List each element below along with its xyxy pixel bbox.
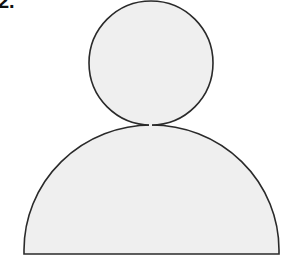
person-silhouette-icon xyxy=(0,0,286,258)
head-circle-shape xyxy=(89,1,213,125)
body-dome-shape xyxy=(24,125,279,254)
neck-gap xyxy=(149,121,152,129)
